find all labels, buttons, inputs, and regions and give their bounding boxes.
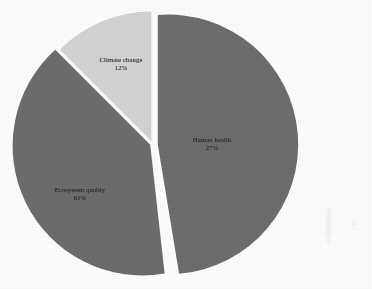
- pie-label-human-health-name: Human health: [176, 136, 248, 144]
- pie-label-climate-change: Climate change 12%: [82, 56, 160, 72]
- pie-label-climate-change-percent: 12%: [82, 64, 160, 72]
- pie-label-ecosystem-quality: Ecosystem quality 61%: [34, 186, 126, 202]
- pie-label-climate-change-name: Climate change: [82, 56, 160, 64]
- pie-label-human-health-percent: 27%: [176, 144, 248, 152]
- pie-chart: Human health 27% Ecosystem quality 61% C…: [0, 0, 372, 289]
- pie-label-ecosystem-quality-name: Ecosystem quality: [34, 186, 126, 194]
- pie-label-ecosystem-quality-percent: 61%: [34, 194, 126, 202]
- pie-label-human-health: Human health 27%: [176, 136, 248, 152]
